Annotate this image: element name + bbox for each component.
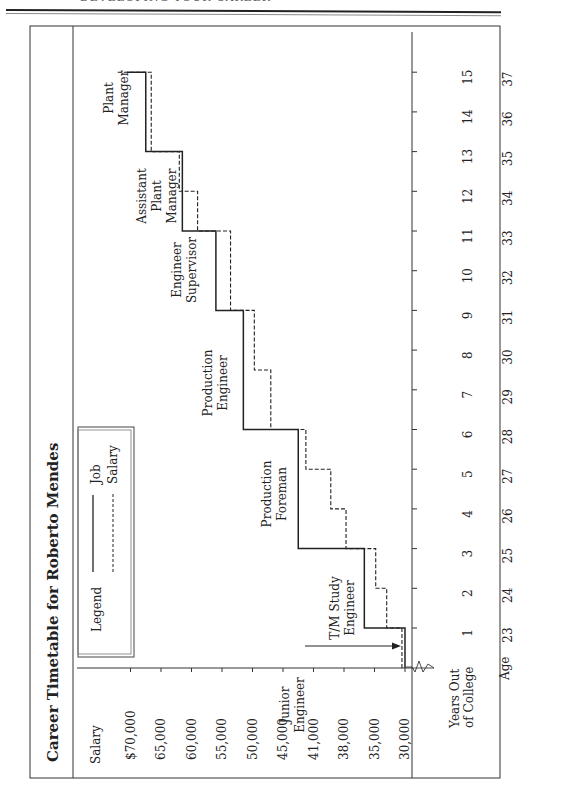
year-tick-label: 9 (461, 312, 475, 320)
salary-tick-label: 38,000 (337, 718, 351, 760)
year-tick-label: 5 (461, 470, 475, 478)
age-tick-label: 29 (501, 389, 515, 404)
annotation-text: Foreman (275, 467, 289, 521)
series-salary-line (116, 72, 402, 668)
annotation-production-foreman: ProductionForeman (260, 460, 289, 527)
year-tick-label: 14 (461, 109, 475, 125)
annotation-text: Production (260, 460, 274, 527)
age-tick-label: 26 (501, 508, 515, 523)
legend-job-label: Job (89, 464, 103, 486)
annotation-text: T/M Study (328, 576, 342, 640)
salary-tick-label: 65,000 (154, 718, 168, 760)
age-tick-label: 27 (501, 469, 515, 484)
salary-axis-title: Salary (89, 725, 103, 764)
salary-tick-label: 41,000 (307, 718, 321, 760)
year-tick-label: 8 (461, 351, 475, 359)
year-tick-label: 15 (461, 70, 475, 85)
year-tick-label: 12 (461, 189, 475, 204)
annotation-text: Production (201, 349, 215, 416)
age-tick-label: 25 (501, 548, 515, 563)
annotation-text: Plant (102, 82, 116, 114)
annotation-engineer-supervisor: EngineerSupervisor (170, 237, 199, 303)
age-tick-label: 28 (501, 429, 515, 444)
annotation-text: Manager (117, 70, 131, 125)
legend-box-inner (78, 430, 131, 654)
chart-title: Career Timetable for Roberto Mendes (44, 443, 62, 762)
age-tick-label: 31 (501, 310, 515, 325)
career-timetable-chart: Career Timetable for Roberto Mendes Lege… (0, 0, 565, 806)
age-tick-label: 36 (501, 111, 515, 126)
age-tick-label: 34 (501, 190, 515, 206)
year-tick-label: 2 (461, 589, 475, 597)
annotation-assistant-plant-manager: AssistantPlantManager (135, 168, 179, 225)
year-tick-label: 6 (461, 431, 475, 439)
years-axis-title-line2: of College (462, 667, 476, 728)
year-tick-label: 10 (461, 268, 475, 283)
legend: Legend Job Salary (78, 427, 134, 657)
annotation-text: Engineer (170, 242, 184, 298)
age-axis-title: Age (498, 657, 512, 681)
age-tick-label: 32 (501, 270, 515, 285)
salary-tick-label: 35,000 (368, 718, 382, 760)
salary-tick-label: $70,000 (124, 710, 138, 760)
age-tick-label: 37 (501, 72, 515, 87)
series-layer (116, 72, 405, 668)
axis-break-icon (406, 661, 434, 672)
salary-tick-label: 30,000 (398, 718, 412, 760)
legend-title: Legend (90, 586, 104, 632)
year-tick-label: 4 (461, 510, 475, 518)
annotation-text: Engineer (216, 355, 230, 411)
age-tick-label: 30 (501, 349, 515, 364)
age-tick-label: 33 (501, 230, 515, 245)
year-tick-label: 11 (461, 228, 475, 243)
annotation-t-m-study-engineer: T/M StudyEngineer (328, 576, 357, 640)
annotation-production-engineer: ProductionEngineer (201, 349, 230, 416)
year-tick-label: 13 (461, 149, 475, 164)
year-tick-label: 7 (461, 391, 475, 399)
annotation-text: Assistant (135, 168, 149, 225)
annotation-text: Manager (165, 168, 179, 223)
salary-tick-label: 55,000 (215, 718, 229, 760)
annotation-text: Engineer (343, 580, 357, 636)
year-tick-label: 3 (461, 550, 475, 558)
annotation-text: Supervisor (185, 237, 199, 303)
legend-salary-label: Salary (106, 445, 120, 484)
age-tick-label: 24 (501, 587, 515, 603)
age-tick-label: 23 (501, 627, 515, 642)
annotation-text: Plant (150, 180, 164, 212)
annotation-plant-manager: PlantManager (102, 70, 131, 125)
annotation-text: Engineer (293, 677, 307, 733)
year-tick-label: 1 (461, 629, 475, 637)
salary-axis: $70,00065,00060,00055,00050,00045,00041,… (77, 668, 412, 760)
annotation-layer: JuniorEngineerT/M StudyEngineerProductio… (102, 70, 401, 733)
years-axis-title-line1: Years Out (448, 669, 462, 729)
salary-tick-label: 50,000 (246, 718, 260, 760)
salary-tick-label: 60,000 (185, 718, 199, 760)
arrow-head-icon (392, 643, 401, 650)
age-tick-label: 35 (501, 151, 515, 166)
annotation-text: Junior (278, 686, 292, 725)
